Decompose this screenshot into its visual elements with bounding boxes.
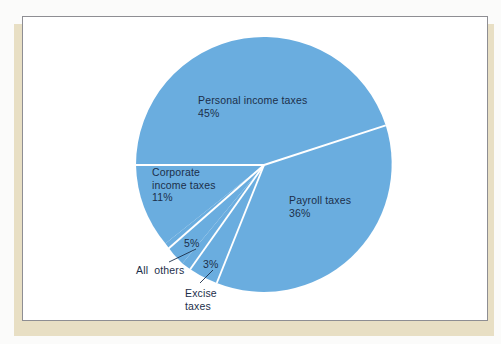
slice-label-excise-pct: 3% [203, 258, 218, 271]
slice-label-excise-name-line1: Excise [185, 287, 217, 299]
slice-label-payroll-pct: 36% [289, 207, 310, 219]
slice-label-personal-name: Personal income taxes [198, 94, 307, 106]
slice-label-excise-taxes-name: Excisetaxes [185, 287, 217, 312]
pie-chart: Personal income taxes45% Payroll taxes36… [0, 0, 501, 344]
slice-label-personal-pct: 45% [198, 107, 219, 119]
slice-label-excise-name-line2: taxes [185, 300, 211, 312]
slice-label-personal-income-taxes: Personal income taxes45% [198, 94, 307, 119]
slice-label-payroll-name: Payroll taxes [289, 194, 351, 206]
slice-label-all-others-pct: 5% [184, 237, 199, 250]
slice-label-corporate-income-taxes: Corporateincome taxes11% [152, 166, 216, 204]
pie-chart-svg [0, 0, 501, 344]
figure-canvas: Personal income taxes45% Payroll taxes36… [0, 0, 501, 344]
slice-label-all-others-name: All others [136, 264, 184, 277]
slice-label-payroll-taxes: Payroll taxes36% [289, 194, 351, 219]
slice-label-corporate-name-line2: income taxes [152, 179, 216, 191]
slice-label-corporate-name-line1: Corporate [152, 166, 200, 178]
slice-label-corporate-pct: 11% [152, 191, 173, 203]
